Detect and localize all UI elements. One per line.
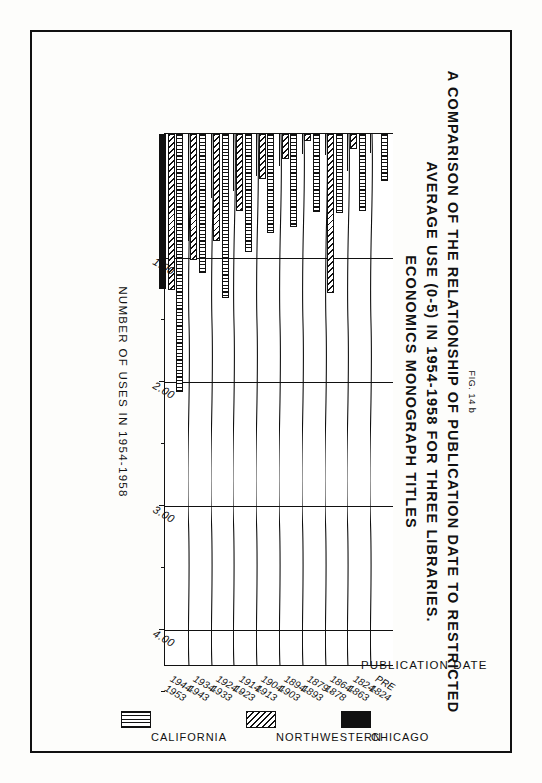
- bar-northwestern: [304, 134, 311, 141]
- value-axis-line: [164, 133, 165, 666]
- category-axis-title: PUBLICATION DATE: [361, 659, 487, 671]
- bar-california: [313, 134, 320, 212]
- bar-california: [359, 134, 366, 211]
- bar-california: [290, 134, 297, 227]
- category-panel: [302, 133, 325, 666]
- category-panel: [325, 133, 348, 666]
- legend-label: NORTHWESTERN: [276, 731, 382, 743]
- legend-swatch-chicago: [341, 711, 371, 728]
- category-panel: [188, 133, 211, 666]
- legend-item: NORTHWESTERN: [246, 711, 276, 728]
- category-panel-wrap: [256, 133, 279, 666]
- category-panel-wrap: [211, 133, 234, 666]
- value-axis-title: NUMBER OF USES IN 1954-1958: [117, 47, 129, 737]
- figure-page: FIG. 14 b A COMPARISON OF THE RELATIONSH…: [0, 0, 542, 783]
- bar-california: [176, 134, 183, 392]
- axis-tick-minor: [161, 566, 165, 567]
- figure-title: A COMPARISON OF THE RELATIONSHIP OF PUBL…: [400, 47, 463, 737]
- bar-california: [267, 134, 274, 233]
- bar-california: [245, 134, 252, 252]
- category-panel-wrap: [370, 133, 393, 666]
- bar-northwestern: [236, 134, 243, 211]
- bar-northwestern: [350, 134, 357, 149]
- bar-northwestern: [213, 134, 220, 241]
- legend-item: CALIFORNIA: [121, 711, 151, 728]
- category-panel: [256, 133, 279, 666]
- bar-california: [222, 134, 229, 298]
- axis-tick-minor: [161, 690, 165, 691]
- bar-california: [336, 134, 343, 213]
- plot-area: [165, 133, 393, 666]
- bar-northwestern: [327, 134, 334, 293]
- category-panel: [370, 133, 393, 666]
- bar-california: [381, 134, 388, 181]
- category-panel-wrap: [325, 133, 348, 666]
- category-panel: [211, 133, 234, 666]
- category-panel-wrap: [233, 133, 256, 666]
- bar-california: [199, 134, 206, 273]
- category-panel-wrap: [279, 133, 302, 666]
- legend-swatch-california: [121, 711, 151, 728]
- figure-number: FIG. 14 b: [467, 47, 477, 737]
- category-label: 1944-1953: [163, 673, 196, 705]
- category-panel: [233, 133, 256, 666]
- axis-tick-minor: [161, 442, 165, 443]
- bar-northwestern: [190, 134, 197, 260]
- category-panel-wrap: [347, 133, 370, 666]
- legend-item: CHICAGO: [341, 711, 371, 728]
- legend-label: CALIFORNIA: [151, 731, 227, 743]
- category-panel: [347, 133, 370, 666]
- bar-northwestern: [282, 134, 289, 159]
- category-panel-wrap: [302, 133, 325, 666]
- rotated-figure-stage: FIG. 14 b A COMPARISON OF THE RELATIONSH…: [61, 47, 481, 737]
- legend-swatch-northwestern: [246, 711, 276, 728]
- figure-title-line-2: AVERAGE USE (0-5) IN 1954-1958 FOR THREE…: [421, 47, 442, 737]
- bar-northwestern: [259, 134, 266, 179]
- figure-title-line-3: ECONOMICS MONOGRAPH TITLES: [400, 47, 421, 737]
- chart-legend: CHICAGONORTHWESTERNCALIFORNIA: [61, 711, 481, 737]
- figure-title-line-1: A COMPARISON OF THE RELATIONSHIP OF PUBL…: [442, 47, 463, 737]
- axis-tick-minor: [161, 318, 165, 319]
- category-panel: [279, 133, 302, 666]
- category-panel-wrap: [188, 133, 211, 666]
